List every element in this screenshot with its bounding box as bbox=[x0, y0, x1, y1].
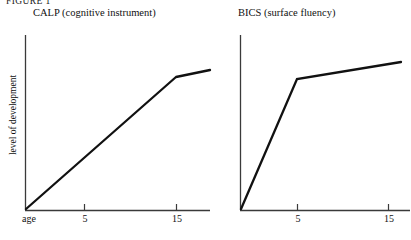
x-tick-label-5: 5 bbox=[296, 213, 301, 224]
x-tick-label-5: 5 bbox=[83, 213, 88, 224]
x-tick-label-15: 15 bbox=[172, 213, 182, 224]
data-line-calp bbox=[26, 70, 210, 209]
plot-area-calp bbox=[0, 0, 222, 240]
chart-panel-bics: BICS (surface fluency) 5 15 bbox=[222, 0, 411, 240]
chart-panel-calp: CALP (cognitive instrument) level of dev… bbox=[0, 0, 222, 240]
figure-container: FIGURE 1 CALP (cognitive instrument) lev… bbox=[0, 0, 411, 240]
plot-area-bics bbox=[222, 0, 411, 240]
x-tick-label-15: 15 bbox=[384, 213, 394, 224]
data-line-bics bbox=[241, 62, 401, 209]
x-axis-origin-label-age: age bbox=[22, 213, 36, 224]
